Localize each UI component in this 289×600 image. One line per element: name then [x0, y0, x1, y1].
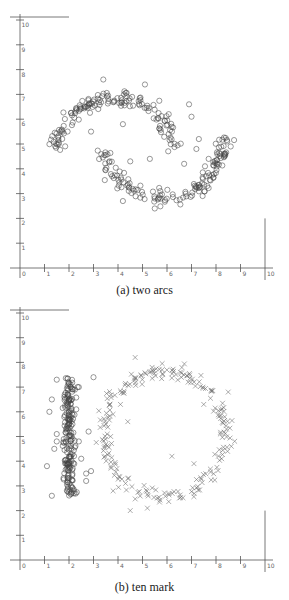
data-point-circle	[54, 377, 59, 382]
data-point-x	[104, 411, 109, 416]
data-point-circle	[150, 189, 155, 194]
data-point-x	[208, 396, 213, 401]
data-point-x	[150, 376, 155, 381]
data-point-circle	[178, 202, 183, 207]
x-tick-label: 9	[243, 562, 247, 569]
data-point-x	[104, 391, 109, 396]
data-point-x	[179, 365, 184, 370]
x-tick-label: 7	[194, 270, 198, 277]
data-point-circle	[169, 124, 174, 129]
data-point-circle	[50, 134, 55, 139]
data-point-x	[107, 402, 112, 407]
data-point-x	[192, 461, 197, 466]
axes: 01234567891012345678910	[10, 307, 275, 572]
data-point-x	[152, 495, 157, 500]
data-point-x	[106, 451, 111, 456]
data-point-x	[160, 367, 165, 372]
data-point-circle	[108, 150, 113, 155]
data-point-x	[170, 368, 175, 373]
data-point-x	[109, 460, 114, 465]
data-point-circle	[158, 204, 163, 209]
data-point-circle	[158, 189, 163, 194]
data-point-x	[191, 494, 196, 499]
data-point-x	[189, 489, 194, 494]
data-point-circle	[164, 196, 169, 201]
data-point-x	[123, 481, 128, 486]
data-point-circle	[102, 177, 107, 182]
y-tick-label: 5	[22, 438, 26, 445]
x-tick-label: 0	[22, 562, 26, 569]
data-point-circle	[44, 464, 49, 469]
data-point-circle	[84, 478, 89, 483]
data-point-x	[109, 455, 114, 460]
data-point-x	[133, 355, 138, 360]
data-point-circle	[206, 156, 211, 161]
data-point-x	[160, 372, 165, 377]
data-point-circle	[174, 198, 179, 203]
data-point-x	[116, 485, 121, 490]
data-point-x	[126, 383, 131, 388]
series-vertical-bar-1-	[44, 375, 96, 499]
x-tick-label: 8	[218, 270, 222, 277]
data-point-circle	[166, 112, 171, 117]
x-tick-label: 6	[169, 270, 173, 277]
data-point-circle	[164, 114, 169, 119]
data-point-circle	[80, 98, 85, 103]
data-point-x	[105, 432, 110, 437]
data-point-circle	[49, 397, 54, 402]
data-point-circle	[231, 137, 236, 142]
y-tick-label: 3	[22, 195, 26, 202]
chart-panel-two-arcs: 01234567891012345678910 (a) two arcs	[0, 0, 289, 300]
y-tick-label: 6	[22, 413, 26, 420]
data-point-x	[210, 388, 215, 393]
y-tick-label: 8	[22, 71, 26, 78]
data-point-x	[111, 488, 116, 493]
data-point-circle	[133, 187, 138, 192]
y-tick-label: 8	[22, 363, 26, 370]
data-point-circle	[220, 163, 225, 168]
data-point-x	[190, 485, 195, 490]
data-point-circle	[151, 102, 156, 107]
data-point-x	[222, 414, 227, 419]
data-point-circle	[147, 156, 152, 161]
x-tick-label: 4	[120, 562, 124, 569]
y-tick-label: 1	[22, 244, 26, 251]
data-point-circle	[63, 144, 68, 149]
data-point-x	[201, 402, 206, 407]
data-point-x	[98, 418, 103, 423]
data-point-circle	[62, 116, 67, 121]
y-tick-label: 9	[22, 339, 26, 346]
data-point-x	[102, 444, 107, 449]
data-point-circle	[56, 134, 61, 139]
data-point-x	[162, 491, 167, 496]
data-point-x	[224, 427, 229, 432]
data-point-x	[228, 436, 233, 441]
data-point-x	[118, 402, 123, 407]
data-point-circle	[52, 446, 57, 451]
y-tick-label: 2	[22, 512, 26, 519]
series-ring-0-	[94, 355, 237, 513]
x-tick-label: 6	[169, 562, 173, 569]
data-point-x	[194, 477, 199, 482]
data-point-circle	[194, 146, 199, 151]
x-tick-label: 9	[243, 270, 247, 277]
data-point-x	[225, 419, 230, 424]
data-point-circle	[213, 141, 218, 146]
chart-panel-ten-mark: 01234567891012345678910 (b) ten mark	[0, 300, 289, 600]
data-point-x	[175, 377, 180, 382]
y-tick-label: 7	[22, 95, 26, 102]
data-point-x	[146, 494, 151, 499]
data-point-x	[209, 478, 214, 483]
data-point-x	[193, 384, 198, 389]
data-point-circle	[121, 170, 126, 175]
data-point-x	[108, 408, 113, 413]
x-tick-label: 5	[145, 562, 149, 569]
data-point-circle	[202, 189, 207, 194]
x-tick-label: 10	[267, 270, 275, 277]
data-point-x	[126, 476, 131, 481]
x-tick-label: 2	[71, 270, 75, 277]
caption-two-arcs: (a) two arcs	[0, 283, 289, 298]
data-point-circle	[128, 159, 133, 164]
data-point-circle	[61, 110, 66, 115]
caption-ten-mark: (b) ten mark	[0, 580, 289, 595]
